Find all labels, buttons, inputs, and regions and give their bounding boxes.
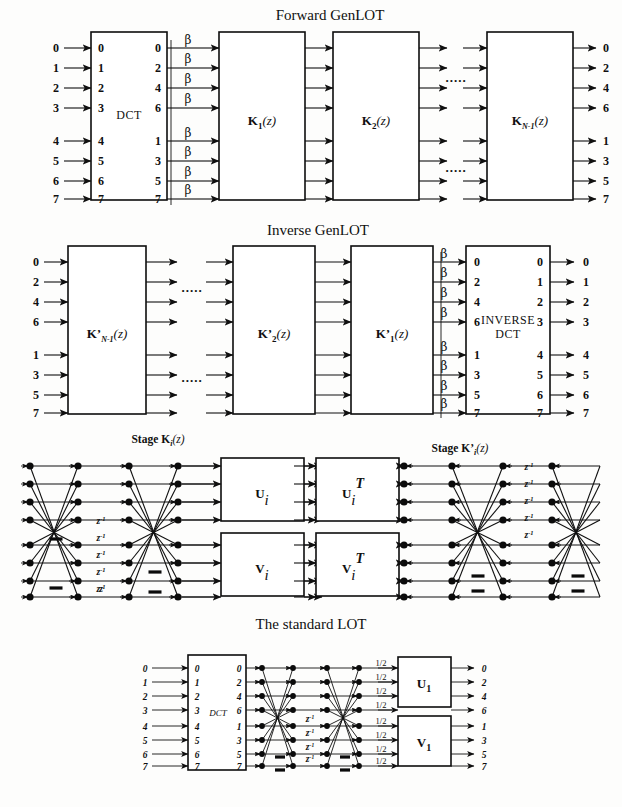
lot-dct-outport-6: 5 [237, 750, 242, 760]
section-forward-genlot: Forward GenLOT DCT K1(z) K2(z) KN-1(z) .… [53, 7, 609, 206]
forward-output-label-4: 1 [603, 134, 609, 148]
stage-inverse-title: Stage K’i(z) [432, 442, 489, 457]
diagram-svg: Forward GenLOT DCT K1(z) K2(z) KN-1(z) .… [0, 0, 622, 807]
stage-inverse-z-label-4: z-1 [523, 529, 533, 541]
inverse-title: Inverse GenLOT [267, 222, 369, 238]
inverse-input-label-3: 6 [33, 315, 39, 329]
forward-output-label-6: 5 [603, 174, 609, 188]
forward-beta-0: β [185, 33, 192, 47]
inverse-ellipsis-top: ..... [181, 280, 202, 295]
lot-output-label-1: 2 [481, 678, 487, 688]
lot-dct-outport-4: 1 [237, 722, 242, 732]
lot-input-label-3: 3 [142, 706, 148, 716]
inverse-dct-outport-4: 4 [537, 348, 543, 362]
forward-dct-inport-3: 3 [98, 101, 104, 115]
stage-inverse-minus-3 [572, 574, 585, 577]
stage-inverse-z-label-1: z-1 [523, 478, 533, 490]
lot-half-label-1: 1/2 [376, 672, 387, 682]
lot-dct-inport-0: 0 [195, 664, 200, 674]
stage-inverse-z-label-0: z-1 [523, 461, 533, 473]
inverse-ellipsis-bottom: ..... [181, 370, 202, 385]
lot-half-label-4: 1/2 [376, 716, 387, 726]
lot-minus-0 [275, 755, 285, 758]
section-stage-forward: Stage Ki(z) Ui Vi z-1z-1z-1z-1zz-1 [21, 433, 322, 601]
forward-dct-inport-7: 7 [98, 192, 104, 206]
inverse-dct-outport-3: 3 [537, 315, 543, 329]
inverse-block-K2[interactable] [233, 246, 315, 414]
inverse-beta-3: β [441, 306, 448, 320]
inverse-input-label-7: 7 [33, 406, 39, 420]
forward-dct-outport-5: 3 [155, 154, 161, 168]
lot-half-label-3: 1/2 [376, 700, 387, 710]
lot-dct-outport-3: 6 [237, 706, 242, 716]
inverse-dct-inport-3: 6 [474, 315, 480, 329]
inverse-dct-outport-0: 0 [537, 255, 543, 269]
forward-input-label-3: 3 [53, 101, 59, 115]
inverse-block-KN1[interactable] [68, 246, 146, 414]
forward-dct-outport-4: 1 [155, 134, 161, 148]
lot-input-label-7: 7 [143, 762, 149, 772]
inverse-dct-outport-7: 7 [537, 406, 543, 420]
section-standard-lot: The standard LOT DCT U1 V1 0001122243364… [142, 616, 488, 772]
inverse-dct-label-2: DCT [495, 327, 521, 341]
stage-forward-minus-1 [50, 586, 63, 589]
inverse-dct-inport-5: 3 [474, 368, 480, 382]
lot-output-label-4: 1 [482, 722, 487, 732]
lot-output-label-7: 7 [482, 762, 488, 772]
lot-output-label-5: 3 [481, 736, 487, 746]
forward-dct-outport-0: 0 [155, 41, 161, 55]
lot-minus-2 [340, 755, 350, 758]
inverse-dct-outport-6: 6 [537, 388, 543, 402]
stage-forward-minus-3 [149, 590, 162, 593]
lot-dct-inport-5: 5 [195, 736, 200, 746]
stage-forward-minus-2 [149, 570, 162, 573]
forward-input-label-5: 5 [53, 154, 59, 168]
lot-dct-outport-2: 4 [236, 692, 242, 702]
forward-dct-outport-7: 7 [155, 192, 161, 206]
inverse-dct-inport-6: 5 [474, 388, 480, 402]
lot-dct-inport-3: 3 [194, 706, 200, 716]
forward-dct-inport-4: 4 [98, 134, 104, 148]
inverse-output-label-5: 5 [583, 368, 589, 382]
inverse-input-label-2: 4 [33, 295, 39, 309]
inverse-output-label-4: 4 [583, 348, 589, 362]
lot-minus-3 [340, 768, 350, 771]
lot-output-label-0: 0 [482, 664, 487, 674]
forward-output-label-0: 0 [603, 41, 609, 55]
forward-dct-outport-6: 5 [155, 174, 161, 188]
forward-output-label-3: 6 [603, 101, 609, 115]
lot-half-label-6: 1/2 [376, 744, 387, 754]
forward-dct-outport-2: 4 [155, 81, 161, 95]
lot-input-label-1: 1 [143, 678, 148, 688]
forward-beta-2: β [185, 72, 192, 86]
forward-input-label-4: 4 [53, 134, 59, 148]
lot-z-label-2: z-1 [305, 742, 315, 753]
stage-inverse-z-label-2: z-1 [523, 495, 533, 507]
stage-inverse-minus-2 [572, 589, 585, 592]
forward-dct-inport-2: 2 [98, 81, 104, 95]
forward-input-label-0: 0 [53, 41, 59, 55]
forward-output-label-2: 4 [603, 81, 609, 95]
forward-block-KN1[interactable] [487, 32, 573, 200]
section-inverse-genlot: Inverse GenLOT K’N-1(z) K’2(z) K’1(z) IN… [33, 222, 589, 420]
lot-minus-1 [275, 768, 285, 771]
stage-forward-z-label-0: z-1 [95, 515, 105, 527]
lot-input-label-4: 4 [142, 722, 148, 732]
section-stage-inverse: Stage K’i(z) UiT ViT z-1z-1z-1z-1z-1 [294, 442, 600, 601]
lot-input-label-5: 5 [143, 736, 148, 746]
lot-dct-inport-2: 2 [194, 692, 200, 702]
inverse-beta-1: β [441, 266, 448, 280]
inverse-output-label-7: 7 [583, 406, 589, 420]
lot-dct-outport-0: 0 [237, 664, 242, 674]
lot-output-label-6: 5 [482, 750, 487, 760]
inverse-block-K1[interactable] [351, 246, 433, 414]
inverse-output-label-1: 1 [583, 275, 589, 289]
lot-dct-inport-1: 1 [195, 678, 200, 688]
inverse-dct-inport-1: 2 [474, 275, 480, 289]
forward-output-label-5: 3 [603, 154, 609, 168]
forward-title: Forward GenLOT [276, 7, 385, 23]
inverse-dct-inport-2: 4 [474, 295, 480, 309]
inverse-output-label-2: 2 [583, 295, 589, 309]
figure-canvas: Forward GenLOT DCT K1(z) K2(z) KN-1(z) .… [0, 0, 622, 807]
inverse-input-label-6: 5 [33, 388, 39, 402]
